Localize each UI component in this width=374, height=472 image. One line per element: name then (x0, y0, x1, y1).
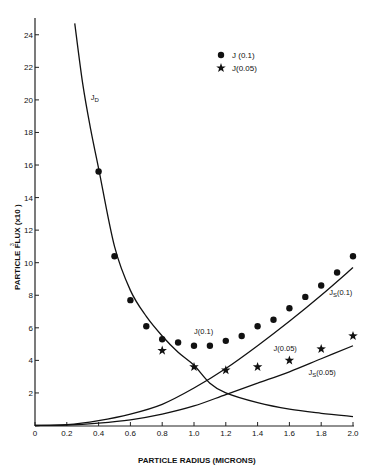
circle-marker-icon (111, 253, 117, 259)
circle-marker-icon (143, 323, 149, 329)
circle-marker-icon (127, 297, 133, 303)
x-tick-label: 0.4 (93, 429, 105, 438)
y-tick-label: 12 (24, 226, 33, 235)
legend-star-icon (216, 63, 226, 72)
curve-label: JD (91, 93, 100, 103)
circle-marker-icon (191, 343, 197, 349)
y-tick-label: 16 (24, 161, 33, 170)
y-tick-label: 10 (24, 259, 33, 268)
x-tick-label: 1.4 (252, 429, 264, 438)
circle-marker-icon (286, 305, 292, 311)
circle-marker-icon (223, 338, 229, 344)
curve-jd (75, 23, 353, 416)
legend-label-j005: J(0.05) (232, 64, 257, 73)
star-marker-icon (157, 346, 167, 355)
y-tick-label: 8 (29, 291, 34, 300)
y-tick-label: 18 (24, 128, 33, 137)
curve-label: J(0.1) (194, 327, 214, 336)
curve-label: JS(0.05) (308, 368, 336, 378)
x-tick-label: 1.2 (220, 429, 232, 438)
circle-marker-icon (159, 336, 165, 342)
y-tick-label: 24 (24, 31, 33, 40)
curve-js-0-05 (35, 346, 353, 426)
circle-marker-icon (350, 253, 356, 259)
legend-label-j01: J (0.1) (232, 51, 255, 60)
y-tick-label: 20 (24, 96, 33, 105)
circle-marker-icon (239, 333, 245, 339)
y-axis-label-exponent: 3 (9, 243, 15, 246)
circle-marker-icon (270, 316, 276, 322)
y-tick-label: 14 (24, 194, 33, 203)
x-tick-label: 2.0 (347, 429, 359, 438)
legend: J (0.1) J(0.05) (216, 51, 257, 73)
x-axis-label: PARTICLE RADIUS (MICRONS) (138, 456, 256, 465)
data-markers (95, 168, 357, 374)
circle-marker-icon (318, 282, 324, 288)
star-marker-icon (348, 331, 358, 340)
circle-marker-icon (207, 343, 213, 349)
particle-flux-chart: 24681012141618202224 00.20.40.60.81.01.2… (0, 0, 374, 472)
x-tick-label: 0.2 (61, 429, 73, 438)
circle-marker-icon (95, 168, 101, 174)
x-tick-label: 1.0 (188, 429, 200, 438)
circle-marker-icon (302, 294, 308, 300)
circle-marker-icon (175, 339, 181, 345)
y-ticks: 24681012141618202224 (24, 31, 39, 398)
x-tick-label: 0.6 (125, 429, 137, 438)
y-tick-label: 2 (29, 389, 34, 398)
y-tick-label: 22 (24, 63, 33, 72)
x-tick-label: 1.8 (316, 429, 328, 438)
y-axis-label: PARTICLE FLUX (x10 ) (13, 204, 22, 290)
curve-label: J(0.05) (274, 344, 298, 353)
circle-marker-icon (254, 323, 260, 329)
y-tick-label: 4 (29, 356, 34, 365)
star-marker-icon (316, 344, 326, 353)
star-marker-icon (285, 355, 295, 364)
x-tick-label: 1.6 (284, 429, 296, 438)
x-tick-label: 0.8 (157, 429, 169, 438)
circle-marker-icon (334, 269, 340, 275)
x-tick-label: 0 (33, 429, 38, 438)
curve-label: JS(0.1) (329, 288, 353, 298)
star-marker-icon (253, 362, 263, 371)
legend-circle-icon (218, 52, 224, 58)
y-tick-label: 6 (29, 324, 34, 333)
curve-labels: JDJ(0.1)JS(0.1)J(0.05)JS(0.05) (91, 93, 353, 378)
